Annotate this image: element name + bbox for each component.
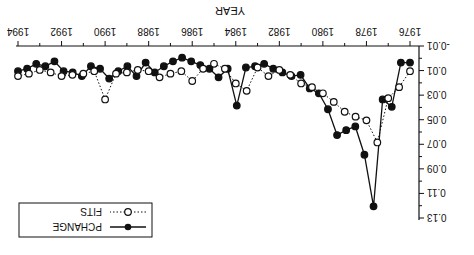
data-point xyxy=(233,102,240,109)
data-point xyxy=(270,65,277,72)
x-tick-label: 1986 xyxy=(181,26,204,37)
data-point xyxy=(222,65,229,72)
data-point xyxy=(47,69,54,76)
axes: -0.010.010.030.050.070.090.110.131976197… xyxy=(6,26,449,223)
data-point xyxy=(297,72,304,79)
data-point xyxy=(189,78,196,85)
y-tick-label: 0.07 xyxy=(427,138,447,149)
data-point xyxy=(374,139,381,146)
data-point xyxy=(330,99,337,106)
series-line xyxy=(18,58,410,207)
data-point xyxy=(102,96,109,103)
data-point xyxy=(161,63,168,70)
y-tick-label: 0.01 xyxy=(427,65,447,76)
data-point xyxy=(58,73,65,80)
legend: PCHANGE FITS xyxy=(19,203,152,237)
data-point xyxy=(200,65,207,72)
data-point xyxy=(298,80,305,87)
y-tick-label: 0.03 xyxy=(427,89,447,100)
data-point xyxy=(320,90,327,97)
data-point xyxy=(334,132,341,139)
data-point xyxy=(69,72,76,79)
y-tick-label: 0.11 xyxy=(427,187,446,198)
chart-svg: -0.010.010.030.050.070.090.110.131976197… xyxy=(0,0,474,255)
data-point xyxy=(254,64,261,71)
data-point xyxy=(91,68,98,75)
chart-figure: -0.010.010.030.050.070.090.110.131976197… xyxy=(0,0,474,255)
data-point xyxy=(352,113,359,120)
data-point xyxy=(26,70,33,77)
data-point xyxy=(370,203,377,210)
x-tick-label: 1976 xyxy=(398,26,421,37)
data-point xyxy=(325,106,332,113)
x-tick-label: 1980 xyxy=(311,26,334,37)
data-point xyxy=(80,70,87,77)
legend-pchange-label: PCHANGE xyxy=(52,221,102,232)
data-point xyxy=(309,84,316,91)
data-point xyxy=(33,61,40,68)
data-point xyxy=(36,67,43,74)
data-point xyxy=(385,95,392,102)
data-point xyxy=(363,117,370,124)
data-point xyxy=(388,104,395,111)
data-point xyxy=(407,68,414,75)
data-point xyxy=(142,59,149,66)
y-tick-label: 0.09 xyxy=(427,163,447,174)
data-point xyxy=(106,75,113,82)
x-tick-label: 1994 xyxy=(6,26,29,37)
data-point xyxy=(134,67,141,74)
data-point xyxy=(167,70,174,77)
data-point xyxy=(276,67,283,74)
data-point xyxy=(156,74,163,81)
data-point xyxy=(287,72,294,79)
data-point xyxy=(211,61,218,68)
x-tick-label: 1992 xyxy=(50,26,73,37)
legend-fits-label: FITS xyxy=(80,206,102,217)
data-point xyxy=(145,68,152,75)
data-point xyxy=(232,80,239,87)
legend-pchange-marker xyxy=(125,224,132,231)
data-point xyxy=(352,123,359,130)
legend-fits-marker xyxy=(125,209,132,216)
data-point xyxy=(407,59,414,66)
x-tick-label: 1978 xyxy=(355,26,378,37)
data-point xyxy=(243,88,250,95)
series-line xyxy=(18,64,410,143)
x-tick-label: 1984 xyxy=(224,26,247,37)
data-point xyxy=(124,69,131,76)
data-point xyxy=(170,58,177,65)
data-point xyxy=(261,61,268,68)
data-point xyxy=(396,84,403,91)
data-point xyxy=(215,74,222,81)
data-point xyxy=(243,64,250,71)
data-point xyxy=(113,70,120,77)
x-tick-label: 1990 xyxy=(94,26,117,37)
data-point xyxy=(343,127,350,134)
data-point xyxy=(51,58,58,65)
data-point xyxy=(179,54,186,61)
data-point xyxy=(188,58,195,65)
x-axis-label: YEAR xyxy=(215,5,245,17)
y-tick-label: -0.01 xyxy=(427,40,450,51)
data-point xyxy=(15,73,22,80)
y-tick-label: 0.13 xyxy=(427,212,447,223)
x-tick-label: 1988 xyxy=(137,26,160,37)
data-point xyxy=(341,108,348,115)
data-point xyxy=(178,68,185,75)
y-tick-label: 0.05 xyxy=(427,114,447,125)
data-point xyxy=(133,73,140,80)
data-point xyxy=(398,59,405,66)
x-tick-label: 1982 xyxy=(268,26,291,37)
data-point xyxy=(265,73,272,80)
data-point xyxy=(361,151,368,158)
